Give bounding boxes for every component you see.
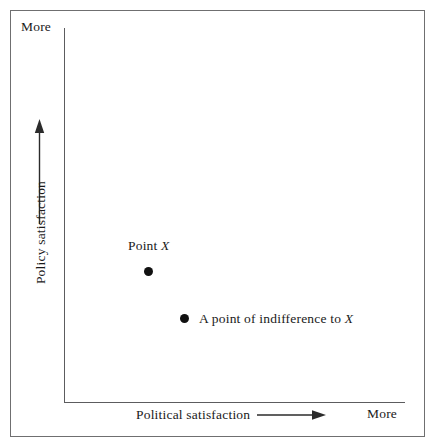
figure-container: More More Policy satisfaction Political … [0,0,434,447]
data-point-x-label-variable: X [161,238,169,253]
data-point-x-label-text: Point [128,238,161,253]
y-axis-line [64,28,65,403]
x-axis-line [64,402,405,403]
y-axis-more-label: More [21,19,51,35]
data-point-x [144,267,153,276]
data-point-x-label: Point X [128,238,170,254]
y-axis-label-group: Policy satisfaction [31,118,48,322]
x-axis-more-label: More [367,406,397,422]
data-point-indifference-label: A point of indifference to X [199,311,353,327]
data-point-indifference [180,314,189,323]
figure-border [10,10,425,437]
data-point-indifference-label-variable: X [345,311,353,326]
arrow-right-icon [257,409,327,421]
x-axis-label-group: Political satisfaction [136,406,327,424]
x-axis-title: Political satisfaction [136,407,250,423]
y-axis-title: Policy satisfaction [32,140,49,326]
data-point-indifference-label-text: A point of indifference to [199,311,345,326]
